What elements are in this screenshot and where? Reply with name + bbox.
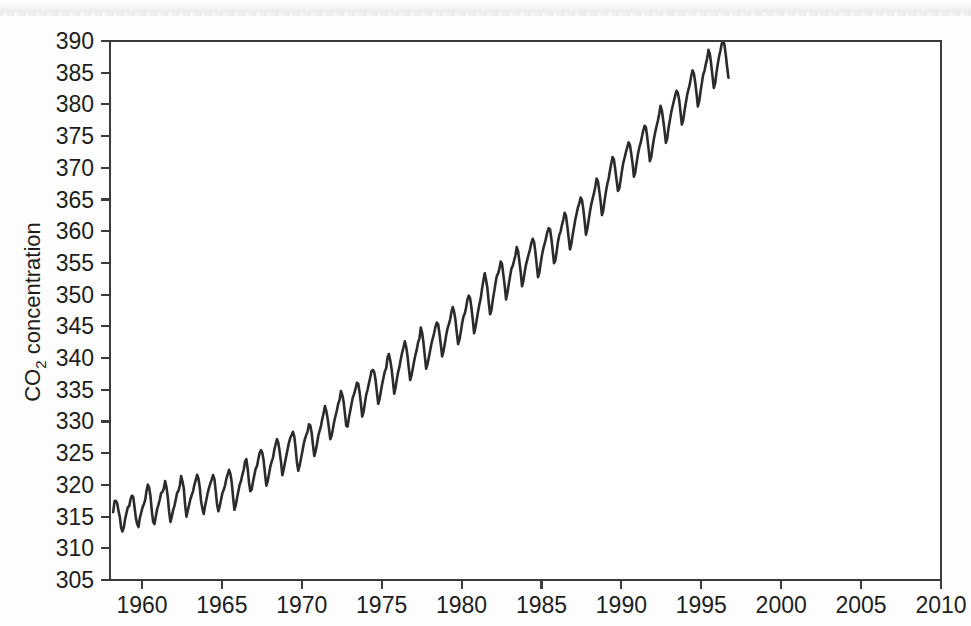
x-tick-label: 2005 [836,592,887,618]
x-tick-label: 1995 [676,592,727,618]
y-axis: 3053103153203253303353403453503553603653… [56,28,110,593]
y-tick-label: 315 [56,504,94,530]
y-axis-title-subscript: 2 [32,360,49,368]
x-tick-label: 1965 [196,592,247,618]
x-tick-label: 1960 [116,592,167,618]
y-tick-label: 380 [56,91,94,117]
y-axis-title: CO2 concentration [20,222,49,402]
y-tick-label: 350 [56,282,94,308]
svg-text:CO2 concentration: CO2 concentration [20,222,49,402]
x-tick-label: 1975 [356,592,407,618]
x-tick-label: 1980 [436,592,487,618]
y-tick-label: 325 [56,440,94,466]
plot-frame [110,41,941,580]
y-tick-label: 345 [56,313,94,339]
x-tick-label: 1970 [276,592,327,618]
y-tick-label: 390 [56,28,94,54]
y-axis-title-rest: concentration [20,222,45,360]
x-axis: 1960196519701975198019851990199520002005… [116,580,966,618]
y-tick-label: 320 [56,472,94,498]
y-tick-label: 365 [56,187,94,213]
x-tick-label: 1990 [596,592,647,618]
y-tick-label: 385 [56,60,94,86]
y-tick-label: 335 [56,377,94,403]
y-tick-label: 310 [56,535,94,561]
y-tick-label: 370 [56,155,94,181]
y-tick-label: 355 [56,250,94,276]
x-tick-label: 2010 [915,592,966,618]
y-tick-label: 305 [56,567,94,593]
x-tick-label: 2000 [756,592,807,618]
y-tick-label: 330 [56,408,94,434]
x-tick-label: 1985 [516,592,567,618]
chart-page: 3053103153203253303353403453503553603653… [0,0,971,626]
y-axis-title-main: CO [20,369,45,402]
y-tick-label: 360 [56,218,94,244]
y-tick-label: 340 [56,345,94,371]
y-tick-label: 375 [56,123,94,149]
co2-concentration-line-chart: 3053103153203253303353403453503553603653… [0,0,971,626]
